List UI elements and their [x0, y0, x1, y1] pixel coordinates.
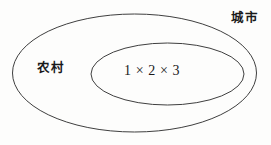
core-expression-label: 1 × 2 × 3: [124, 64, 180, 78]
annulus-region-label: 农村: [37, 62, 64, 75]
diagram-canvas: 城市 农村 1 × 2 × 3: [0, 0, 271, 145]
outer-region-label: 城市: [231, 12, 258, 25]
